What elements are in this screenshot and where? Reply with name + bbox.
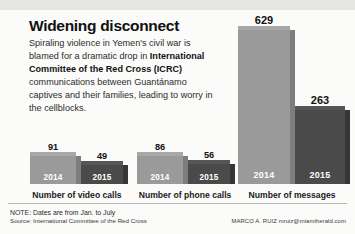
- bar-2015: 2015: [295, 110, 345, 184]
- bar-top: [238, 26, 290, 30]
- bar-side: [123, 165, 128, 184]
- bar-value-2014: 629: [238, 14, 290, 26]
- bar-value-2014: 91: [30, 142, 76, 152]
- infographic-root: Widening disconnect Spiraling violence i…: [0, 0, 355, 234]
- bar-side: [230, 164, 235, 184]
- text-block: Widening disconnect Spiraling violence i…: [29, 18, 215, 115]
- deck-paragraph: Spiraling violence in Yemen's civil war …: [29, 37, 215, 114]
- bar-value-2015: 263: [295, 94, 345, 106]
- bar-top: [81, 161, 123, 165]
- bar-year-label: 2015: [81, 173, 123, 182]
- footer-byline: MARCO A. RUIZ mruiz@miamiherald.com: [231, 218, 346, 224]
- deck-bold-2: Cross (ICRC): [126, 64, 183, 74]
- bar-top: [295, 106, 345, 110]
- deck-line-2: blamed for a dramatic drop in: [29, 51, 147, 61]
- bar-2015: 2015: [81, 165, 123, 184]
- bar-year-label: 2014: [137, 173, 183, 182]
- bar-2015: 2015: [188, 164, 230, 184]
- bar-2014: 2014: [238, 30, 290, 184]
- chart-title: Number of messages: [235, 190, 349, 200]
- bar-face: [238, 30, 290, 184]
- bar-top: [137, 152, 183, 156]
- bar-top: [30, 152, 76, 156]
- bar-top: [188, 160, 230, 164]
- footer-divider: [8, 203, 347, 204]
- chart-title: Number of video calls: [24, 190, 130, 200]
- bar-year-label: 2015: [188, 173, 230, 182]
- footer-source: Source: International Committee of the R…: [10, 217, 147, 224]
- bar-year-label: 2014: [238, 170, 290, 180]
- bar-value-2014: 86: [137, 142, 183, 152]
- deck-line-3: communications between: [29, 77, 132, 87]
- bar-2014: 2014: [137, 156, 183, 184]
- bar-value-2015: 49: [81, 151, 123, 161]
- bar-value-2015: 56: [188, 150, 230, 160]
- page-title: Widening disconnect: [29, 18, 215, 34]
- bar-side: [345, 110, 350, 184]
- chart-video-calls: 91 2014 49 2015 Number of video calls: [26, 140, 128, 202]
- deck-line-1: Spiraling violence in Yemen's civil war …: [29, 38, 190, 48]
- bar-year-label: 2015: [295, 170, 345, 180]
- chart-phone-calls: 86 2014 56 2015 Number of phone calls: [133, 140, 237, 202]
- chart-messages: 629 2014 263 2015 Number of messages: [238, 14, 350, 202]
- bar-year-label: 2014: [30, 173, 76, 182]
- bar-2014: 2014: [30, 156, 76, 184]
- chart-title: Number of phone calls: [131, 190, 239, 200]
